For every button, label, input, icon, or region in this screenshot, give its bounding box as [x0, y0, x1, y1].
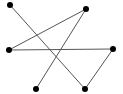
node-n2 — [83, 6, 89, 12]
graph-diagram — [0, 0, 123, 94]
edge-n1-n6 — [10, 5, 85, 89]
edge-n2-n3 — [9, 9, 86, 50]
node-n5 — [33, 86, 39, 92]
edge-n4-n6 — [85, 49, 113, 89]
node-n3 — [6, 47, 12, 53]
edges-group — [9, 5, 113, 89]
node-n6 — [82, 86, 88, 92]
node-n4 — [110, 46, 116, 52]
nodes-group — [6, 2, 116, 92]
edge-n3-n4 — [9, 49, 113, 50]
node-n1 — [7, 2, 13, 8]
